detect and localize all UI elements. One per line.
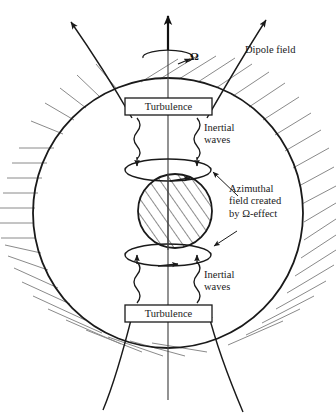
inner-core xyxy=(138,174,212,248)
turbulence-label-top: Turbulence xyxy=(125,98,212,115)
turbulence-label-bottom: Turbulence xyxy=(125,305,212,322)
figure-canvas: Dipole field Ω Turbulence Turbulence Ine… xyxy=(0,0,336,419)
inertial-waves-label-top: Inertial waves xyxy=(204,122,234,147)
inertial-wave-squiggle-top-left xyxy=(134,118,140,159)
dipole-field-line-upper-right xyxy=(207,20,266,118)
omega-label: Ω xyxy=(190,50,199,62)
dipole-field-label: Dipole field xyxy=(245,44,295,56)
inertial-wave-squiggle-top-right xyxy=(194,118,200,159)
azimuthal-field-label: Azimuthal field created by Ω-effect xyxy=(229,183,281,220)
inertial-waves-label-bottom: Inertial waves xyxy=(204,269,234,294)
dipole-field-line-lower-right xyxy=(208,312,243,412)
inertial-wave-squiggle-bottom-right xyxy=(194,262,200,303)
leader-line-azimuthal-bottom xyxy=(214,231,237,246)
inertial-wave-squiggle-bottom-left xyxy=(134,262,140,303)
inertial-wave-arrows-bottom xyxy=(134,255,200,303)
geodynamo-diagram xyxy=(0,0,336,419)
dipole-field-line-lower-left xyxy=(103,312,133,410)
